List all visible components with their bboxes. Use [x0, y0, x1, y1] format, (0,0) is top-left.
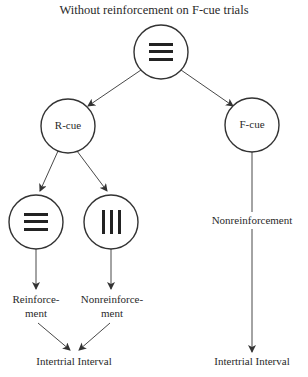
reinforcement-label-line2: ment — [0, 307, 72, 320]
iti-left-label: Intertrial Interval — [14, 355, 134, 368]
arrow-top-to-fcue — [181, 70, 233, 106]
arrow-top-to-rcue — [88, 70, 141, 106]
vertical-lines-icon — [102, 210, 121, 234]
nonreinforcement-split-label-line2: ment — [72, 307, 152, 320]
arrow-nonreinforcement-to-iti — [79, 323, 110, 350]
arrow-rcue-to-vertical — [77, 151, 107, 191]
horizontal-lines-icon — [149, 43, 173, 61]
r-cue-label: R-cue — [41, 119, 95, 132]
f-cue-label: F-cue — [225, 118, 279, 131]
top-stimulus-node — [134, 25, 188, 79]
arrow-reinforcement-to-iti — [38, 323, 70, 350]
horizontal-stimulus-node — [9, 195, 63, 249]
nonreinforcement-f-label: Nonreinforcement — [200, 214, 304, 227]
diagram-canvas — [0, 0, 308, 377]
horizontal-lines-icon — [24, 213, 48, 231]
arrow-rcue-to-horizontal — [40, 151, 58, 191]
vertical-stimulus-node — [84, 195, 138, 249]
reinforcement-label-line1: Reinforce- — [0, 293, 72, 306]
iti-right-label: Intertrial Interval — [192, 355, 308, 368]
nonreinforcement-split-label-line1: Nonreinforce- — [72, 293, 152, 306]
